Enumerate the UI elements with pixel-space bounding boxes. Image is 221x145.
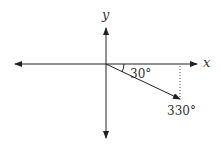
terminal-angle-label: 330° — [167, 104, 196, 118]
y-axis-label: y — [101, 7, 110, 22]
coordinate-diagram: y x 30° 330° — [0, 0, 221, 145]
angle-arc — [122, 64, 124, 72]
x-axis-label: x — [203, 55, 211, 70]
reference-angle-label: 30° — [130, 67, 151, 81]
